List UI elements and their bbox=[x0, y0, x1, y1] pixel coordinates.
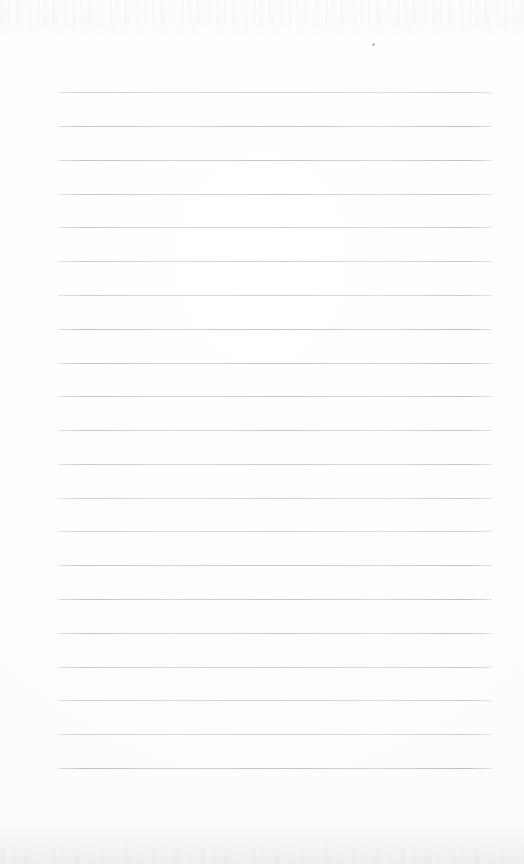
ruled-line bbox=[58, 700, 492, 701]
ruled-line bbox=[58, 261, 492, 262]
ruled-line bbox=[58, 295, 492, 296]
ruled-line bbox=[58, 599, 492, 600]
ruled-line bbox=[58, 734, 492, 735]
scanner-shadow-bottom-edge bbox=[0, 822, 524, 864]
ruled-line bbox=[58, 667, 492, 668]
scanned-page bbox=[0, 0, 524, 864]
ruled-line bbox=[58, 464, 492, 465]
ruled-lines-layer bbox=[0, 0, 524, 864]
ruled-line bbox=[58, 768, 492, 769]
ruled-line bbox=[58, 633, 492, 634]
ruled-line bbox=[58, 565, 492, 566]
ruled-line bbox=[58, 531, 492, 532]
ruled-line bbox=[58, 396, 492, 397]
ruled-line bbox=[58, 194, 492, 195]
ruled-line bbox=[58, 430, 492, 431]
ruled-line bbox=[58, 329, 492, 330]
ruled-line bbox=[58, 498, 492, 499]
dust-speck bbox=[372, 43, 375, 46]
ruled-line bbox=[58, 92, 492, 93]
ruled-line bbox=[58, 160, 492, 161]
ruled-line bbox=[58, 126, 492, 127]
ruled-line bbox=[58, 227, 492, 228]
ruled-line bbox=[58, 363, 492, 364]
scanner-shadow-bottom-streaks bbox=[0, 834, 524, 864]
